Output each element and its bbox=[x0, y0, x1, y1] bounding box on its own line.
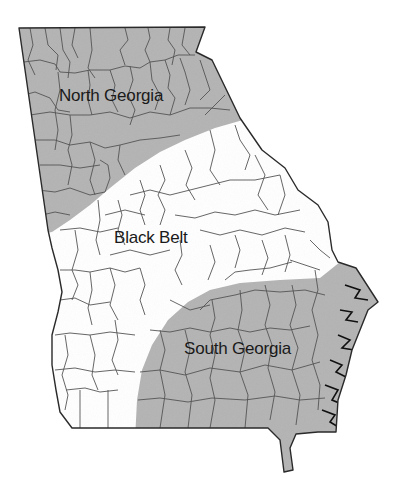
label-south-georgia: South Georgia bbox=[184, 339, 291, 359]
label-north-georgia: North Georgia bbox=[59, 86, 163, 106]
georgia-region-map: North Georgia Black Belt South Georgia bbox=[0, 0, 402, 485]
map-canvas bbox=[0, 0, 402, 485]
label-black-belt: Black Belt bbox=[114, 228, 188, 248]
